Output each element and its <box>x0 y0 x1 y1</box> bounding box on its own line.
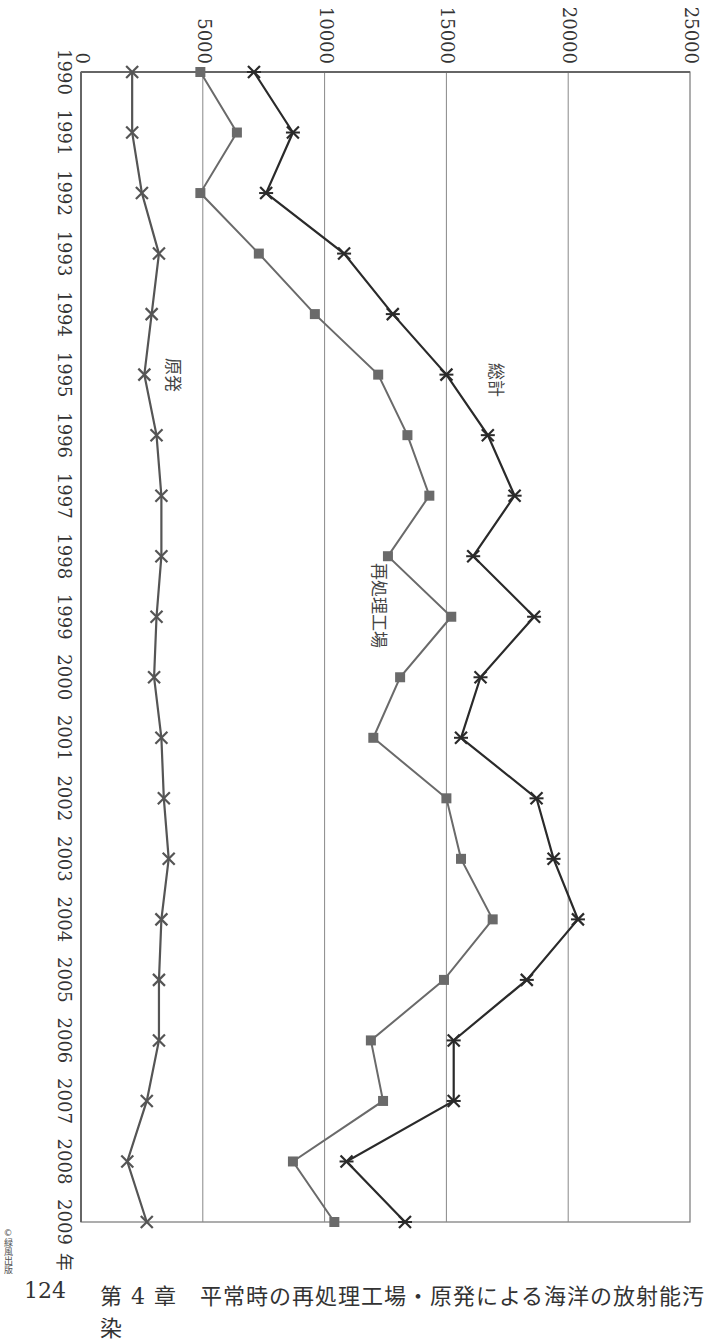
square-marker-icon <box>288 1156 298 1166</box>
year-unit-label: 年 <box>54 1253 75 1270</box>
year-tick-label: 2003 <box>54 836 75 882</box>
year-tick-label: 1992 <box>54 170 75 216</box>
square-marker-icon <box>402 430 412 440</box>
value-tick-label: 5000 <box>194 18 215 64</box>
square-marker-icon <box>378 1096 388 1106</box>
year-tick-label: 1997 <box>54 473 75 519</box>
year-tick-label: 1990 <box>54 49 75 95</box>
series-inline-label: 再処理工場 <box>369 563 389 648</box>
square-marker-icon <box>232 128 242 138</box>
square-marker-icon <box>195 67 205 77</box>
rotated-line-chart: 0500010000150002000025000199019911992199… <box>0 0 712 1270</box>
square-marker-icon <box>424 491 434 501</box>
square-marker-icon <box>383 551 393 561</box>
value-tick-label: 25000 <box>681 7 702 64</box>
square-marker-icon <box>441 793 451 803</box>
square-marker-icon <box>456 854 466 864</box>
year-tick-label: 1994 <box>54 291 75 337</box>
year-tick-label: 1996 <box>54 412 75 458</box>
value-tick-label: 20000 <box>559 7 580 64</box>
square-marker-icon <box>373 370 383 380</box>
square-marker-icon <box>254 249 264 259</box>
year-tick-label: 2005 <box>54 957 75 1003</box>
page-number: 124 <box>24 1278 66 1303</box>
square-marker-icon <box>329 1217 339 1227</box>
year-tick-label: 1999 <box>54 594 75 640</box>
series-line <box>200 72 492 1222</box>
series-inline-label: 総計 <box>486 363 506 397</box>
year-tick-label: 2008 <box>54 1139 75 1185</box>
square-marker-icon <box>439 975 449 985</box>
chapter-title: 第 4 章 平常時の再処理工場・原発による海洋の放射能汚染 <box>100 1278 712 1342</box>
value-tick-label: 15000 <box>437 7 458 64</box>
page-footer: 124 第 4 章 平常時の再処理工場・原発による海洋の放射能汚染 <box>0 1278 712 1308</box>
series-line <box>127 72 168 1222</box>
year-tick-label: 2007 <box>54 1078 75 1124</box>
square-marker-icon <box>368 733 378 743</box>
square-marker-icon <box>366 1035 376 1045</box>
year-tick-label: 2009 <box>54 1199 75 1245</box>
series-inline-label: 原発 <box>163 358 183 392</box>
year-tick-label: 1995 <box>54 352 75 398</box>
year-tick-label: 2001 <box>54 715 75 761</box>
year-tick-label: 1993 <box>54 231 75 277</box>
square-marker-icon <box>488 914 498 924</box>
square-marker-icon <box>446 612 456 622</box>
square-marker-icon <box>395 672 405 682</box>
year-tick-label: 2004 <box>54 896 75 942</box>
year-tick-label: 1998 <box>54 533 75 579</box>
copyright-notice: ©緑風出版 <box>2 1228 15 1274</box>
year-tick-label: 2000 <box>54 654 75 700</box>
square-marker-icon <box>310 309 320 319</box>
series-line <box>254 72 578 1222</box>
year-tick-label: 2006 <box>54 1018 75 1064</box>
value-tick-label: 10000 <box>316 7 337 64</box>
year-tick-label: 2002 <box>54 775 75 821</box>
year-tick-label: 1991 <box>54 110 75 156</box>
square-marker-icon <box>195 188 205 198</box>
